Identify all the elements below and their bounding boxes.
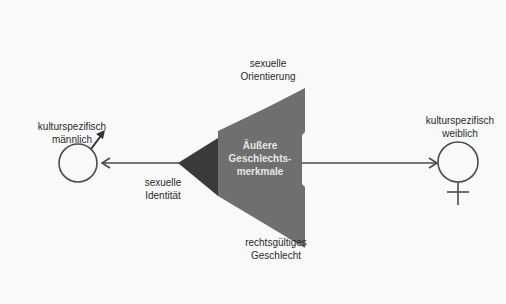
identity-label-line1: sexuelle — [145, 176, 182, 189]
identity-label-line2: Identität — [145, 189, 182, 202]
triangle-dark-shape — [178, 138, 218, 196]
female-label-line2: weiblich — [426, 127, 494, 140]
center-label: Äußere Geschlechts- merkmale — [229, 139, 292, 178]
legal-label-line1: rechtsgültiges — [245, 236, 307, 249]
center-label-line1: Äußere — [229, 139, 292, 152]
female-symbol-icon — [438, 142, 478, 205]
male-label-line1: kulturspezifisch — [38, 120, 106, 133]
orientation-label: sexuelle Orientierung — [240, 57, 295, 83]
male-label-line2: männlich — [38, 133, 106, 146]
center-label-line2: Geschlechts- — [229, 152, 292, 165]
female-label-line1: kulturspezifisch — [426, 114, 494, 127]
orientation-label-line1: sexuelle — [240, 57, 295, 70]
male-label: kulturspezifisch männlich — [38, 120, 106, 146]
orientation-label-line2: Orientierung — [240, 70, 295, 83]
legal-label: rechtsgültiges Geschlecht — [245, 236, 307, 262]
legal-label-line2: Geschlecht — [245, 249, 307, 262]
female-label: kulturspezifisch weiblich — [426, 114, 494, 140]
center-label-line3: merkmale — [229, 165, 292, 178]
identity-label: sexuelle Identität — [145, 176, 182, 202]
